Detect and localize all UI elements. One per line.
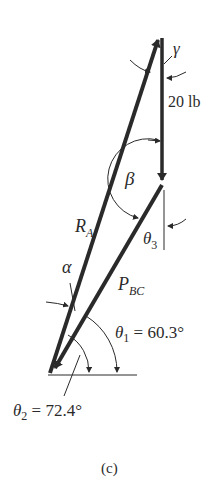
theta2-label: θ2 = 72.4° bbox=[13, 401, 82, 423]
theta3-label: θ3 bbox=[143, 229, 157, 252]
theta1-arc bbox=[86, 316, 117, 372]
theta3-arrow bbox=[168, 219, 186, 226]
force-20lb-label: 20 lb bbox=[168, 93, 200, 110]
pbc-label: PBC bbox=[117, 274, 145, 298]
theta1-label: θ1 = 60.3° bbox=[115, 323, 184, 345]
ra-label: RA bbox=[74, 216, 94, 240]
beta-arrow-top bbox=[148, 140, 160, 141]
gamma-tick bbox=[164, 56, 172, 64]
force-triangle-diagram: γ 20 lb β RA θ3 α PBC θ1 = 60.3° θ2 = 72… bbox=[0, 0, 221, 493]
gamma-label: γ bbox=[173, 39, 181, 58]
alpha-arrow bbox=[46, 302, 68, 306]
gamma-arrow-right bbox=[167, 72, 186, 78]
figure-caption: (c) bbox=[101, 460, 118, 477]
beta-label: β bbox=[124, 168, 135, 189]
alpha-label: α bbox=[62, 257, 72, 277]
